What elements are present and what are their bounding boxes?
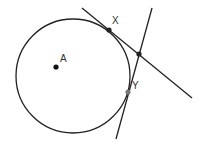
label-a: A	[60, 53, 67, 64]
diagram-svg: AXY	[0, 0, 203, 151]
geometry-diagram: AXY	[0, 0, 203, 151]
label-y: Y	[132, 80, 139, 91]
label-x: X	[112, 15, 119, 26]
circle	[16, 19, 130, 133]
point-x	[106, 27, 111, 32]
tangent-line-y	[116, 8, 152, 139]
point-y	[125, 89, 130, 94]
point-p	[136, 51, 141, 56]
point-a	[53, 64, 58, 69]
